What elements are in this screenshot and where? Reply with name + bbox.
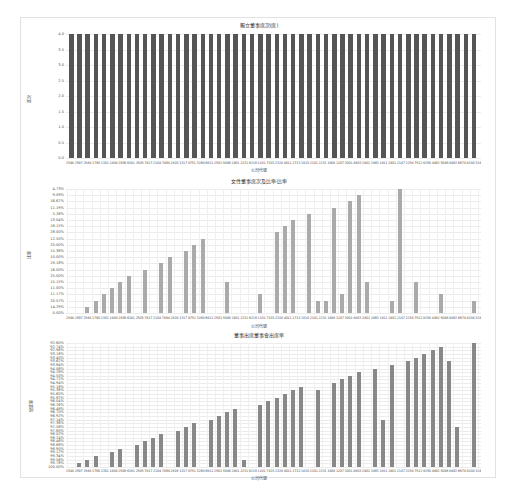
bar[interactable]	[373, 369, 377, 467]
bar[interactable]	[431, 34, 436, 158]
bar[interactable]	[365, 282, 369, 313]
bar[interactable]	[398, 34, 403, 158]
bar[interactable]	[324, 301, 328, 313]
bar[interactable]	[192, 245, 196, 313]
bar[interactable]	[464, 34, 469, 158]
bar[interactable]	[381, 420, 385, 467]
bar[interactable]	[135, 445, 139, 467]
bar[interactable]	[398, 189, 402, 313]
bar[interactable]	[201, 239, 205, 313]
bar[interactable]	[275, 232, 279, 313]
bar[interactable]	[143, 441, 147, 467]
bar[interactable]	[110, 288, 114, 313]
bar[interactable]	[102, 294, 106, 313]
bar[interactable]	[275, 398, 279, 467]
bar[interactable]	[217, 34, 222, 158]
bar[interactable]	[431, 350, 435, 467]
bar[interactable]	[176, 431, 180, 467]
bar[interactable]	[291, 34, 296, 158]
bar[interactable]	[184, 251, 188, 313]
bar[interactable]	[472, 34, 477, 158]
bar[interactable]	[266, 34, 271, 158]
bar[interactable]	[316, 301, 320, 313]
bar[interactable]	[118, 34, 123, 158]
bar[interactable]	[307, 214, 311, 313]
bar[interactable]	[348, 376, 352, 467]
bar[interactable]	[192, 423, 196, 467]
bar[interactable]	[192, 34, 197, 158]
bar[interactable]	[455, 427, 459, 467]
bar[interactable]	[85, 34, 90, 158]
bar[interactable]	[348, 201, 352, 313]
bar[interactable]	[455, 34, 460, 158]
bar[interactable]	[439, 294, 443, 313]
bar[interactable]	[406, 361, 410, 467]
bar[interactable]	[118, 449, 122, 467]
bar[interactable]	[340, 379, 344, 467]
bar[interactable]	[439, 34, 444, 158]
bar[interactable]	[357, 195, 361, 313]
bar[interactable]	[184, 34, 189, 158]
bar[interactable]	[439, 347, 443, 467]
bar[interactable]	[340, 34, 345, 158]
bar[interactable]	[258, 34, 263, 158]
bar[interactable]	[447, 361, 451, 467]
bar[interactable]	[275, 34, 280, 158]
bar[interactable]	[283, 226, 287, 313]
bar[interactable]	[201, 34, 206, 158]
bar[interactable]	[102, 34, 107, 158]
bar[interactable]	[143, 34, 148, 158]
bar[interactable]	[77, 463, 81, 467]
bar[interactable]	[77, 34, 82, 158]
bar[interactable]	[381, 34, 386, 158]
bar[interactable]	[225, 412, 229, 467]
bar[interactable]	[414, 34, 419, 158]
bar[interactable]	[151, 34, 156, 158]
bar[interactable]	[307, 34, 312, 158]
bar[interactable]	[242, 34, 247, 158]
bar[interactable]	[250, 34, 255, 158]
bar[interactable]	[406, 34, 411, 158]
bar[interactable]	[291, 390, 295, 467]
bar[interactable]	[340, 294, 344, 313]
bar[interactable]	[414, 282, 418, 313]
bar[interactable]	[447, 34, 452, 158]
bar[interactable]	[127, 276, 131, 313]
bar[interactable]	[94, 301, 98, 313]
bar[interactable]	[233, 409, 237, 467]
bar[interactable]	[168, 257, 172, 313]
bar[interactable]	[316, 34, 321, 158]
bar[interactable]	[422, 354, 426, 467]
bar[interactable]	[422, 34, 427, 158]
bar[interactable]	[242, 460, 246, 467]
bar[interactable]	[233, 34, 238, 158]
bar[interactable]	[283, 394, 287, 467]
bar[interactable]	[159, 263, 163, 313]
bar[interactable]	[283, 34, 288, 158]
bar[interactable]	[118, 282, 122, 313]
bar[interactable]	[176, 34, 181, 158]
bar[interactable]	[151, 438, 155, 467]
bar[interactable]	[258, 294, 262, 313]
bar[interactable]	[373, 34, 378, 158]
bar[interactable]	[85, 307, 89, 313]
bar[interactable]	[225, 282, 229, 313]
bar[interactable]	[472, 301, 476, 313]
bar[interactable]	[159, 34, 164, 158]
bar[interactable]	[258, 405, 262, 467]
bar[interactable]	[390, 301, 394, 313]
bar[interactable]	[332, 208, 336, 313]
bar[interactable]	[332, 34, 337, 158]
bar[interactable]	[390, 365, 394, 467]
bar[interactable]	[159, 434, 163, 467]
bar[interactable]	[168, 34, 173, 158]
bar[interactable]	[94, 34, 99, 158]
bar[interactable]	[209, 420, 213, 467]
bar[interactable]	[184, 427, 188, 467]
bar[interactable]	[299, 387, 303, 467]
bar[interactable]	[110, 34, 115, 158]
bar[interactable]	[143, 270, 147, 313]
bar[interactable]	[472, 343, 476, 467]
bar[interactable]	[414, 358, 418, 467]
bar[interactable]	[110, 452, 114, 467]
